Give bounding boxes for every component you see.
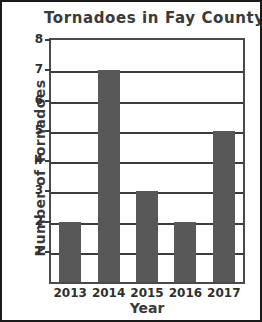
- bar: [136, 191, 158, 282]
- y-tick-mark: [45, 190, 51, 192]
- bar: [98, 70, 120, 282]
- bar: [213, 131, 235, 282]
- y-tick-label: 4: [19, 153, 43, 167]
- y-tick-label: 2: [19, 214, 43, 228]
- x-tick-label: 2017: [200, 286, 248, 300]
- y-tick-label: 5: [19, 123, 43, 137]
- y-tick-mark: [45, 39, 51, 41]
- chart-title: Tornadoes in Fay County: [44, 9, 258, 27]
- chart-figure: Tornadoes in Fay County Number of Tornad…: [0, 0, 262, 322]
- y-tick-mark: [45, 221, 51, 223]
- y-tick-mark: [45, 100, 51, 102]
- bar: [174, 222, 196, 283]
- bar: [59, 222, 81, 283]
- y-tick-mark: [45, 160, 51, 162]
- x-axis-title: Year: [49, 300, 245, 316]
- y-tick-mark: [45, 251, 51, 253]
- y-tick-mark: [45, 69, 51, 71]
- y-tick-label: 3: [19, 183, 43, 197]
- y-tick-label: 8: [19, 32, 43, 46]
- y-tick-label: 7: [19, 62, 43, 76]
- y-tick-label: 1: [19, 244, 43, 258]
- y-tick-mark: [45, 130, 51, 132]
- y-tick-label: 6: [19, 93, 43, 107]
- bar-series: [49, 38, 245, 284]
